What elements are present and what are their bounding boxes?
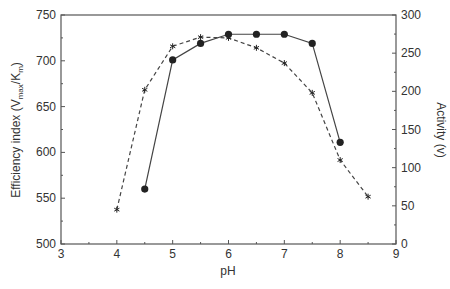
y-axis-left-label: Efficiency index (Vmax/Km) xyxy=(9,62,25,198)
circle-marker xyxy=(141,185,148,192)
y-right-tick-label: 250 xyxy=(401,46,421,60)
plot-border xyxy=(61,15,396,244)
circle-marker xyxy=(253,31,260,38)
data-series xyxy=(114,31,370,213)
circle-marker xyxy=(337,139,344,146)
y-axis-right-label: Activity (v) xyxy=(434,102,448,157)
y-right-tick-label: 150 xyxy=(401,123,421,137)
circle-marker xyxy=(197,40,204,47)
star-marker xyxy=(114,207,119,213)
y-right-tick-label: 200 xyxy=(401,84,421,98)
y-left-tick-label: 600 xyxy=(36,145,56,159)
y-right-tick-label: 300 xyxy=(401,8,421,22)
x-tick-label: 5 xyxy=(169,247,176,261)
x-tick-label: 8 xyxy=(337,247,344,261)
star-marker xyxy=(254,45,259,51)
y-right-tick-label: 0 xyxy=(401,237,408,251)
circle-marker xyxy=(169,56,176,63)
x-axis-label: pH xyxy=(220,264,235,278)
x-tick-label: 4 xyxy=(113,247,120,261)
x-tick-label: 3 xyxy=(58,247,65,261)
y-left-tick-label: 650 xyxy=(36,100,56,114)
y-left-tick-label: 500 xyxy=(36,237,56,251)
y-right-tick-label: 100 xyxy=(401,161,421,175)
star-marker xyxy=(142,87,147,93)
chart: 3456789 500550600650700750 0501001502002… xyxy=(0,0,450,289)
plot-frame xyxy=(61,15,396,244)
y-left-tick-label: 750 xyxy=(36,8,56,22)
circle-marker xyxy=(309,40,316,47)
y-left-tick-label: 700 xyxy=(36,54,56,68)
x-axis: 3456789 xyxy=(58,240,400,261)
circle-marker xyxy=(281,31,288,38)
activity-line xyxy=(117,37,368,210)
x-tick-label: 7 xyxy=(281,247,288,261)
y-right-tick-label: 50 xyxy=(401,199,415,213)
x-tick-label: 9 xyxy=(393,247,400,261)
y-left-tick-label: 550 xyxy=(36,191,56,205)
x-tick-label: 6 xyxy=(225,247,232,261)
